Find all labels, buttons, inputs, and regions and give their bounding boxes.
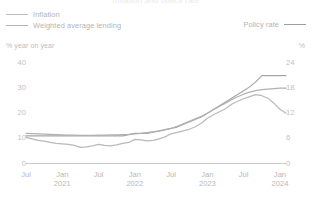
series-line-weighted-average-lending — [26, 88, 286, 135]
series-line-inflation — [26, 95, 286, 148]
chart-container: Inflation and policy rate Inflation Weig… — [0, 0, 312, 200]
series-line-policy-rate — [26, 76, 286, 136]
plot-area — [0, 0, 312, 200]
